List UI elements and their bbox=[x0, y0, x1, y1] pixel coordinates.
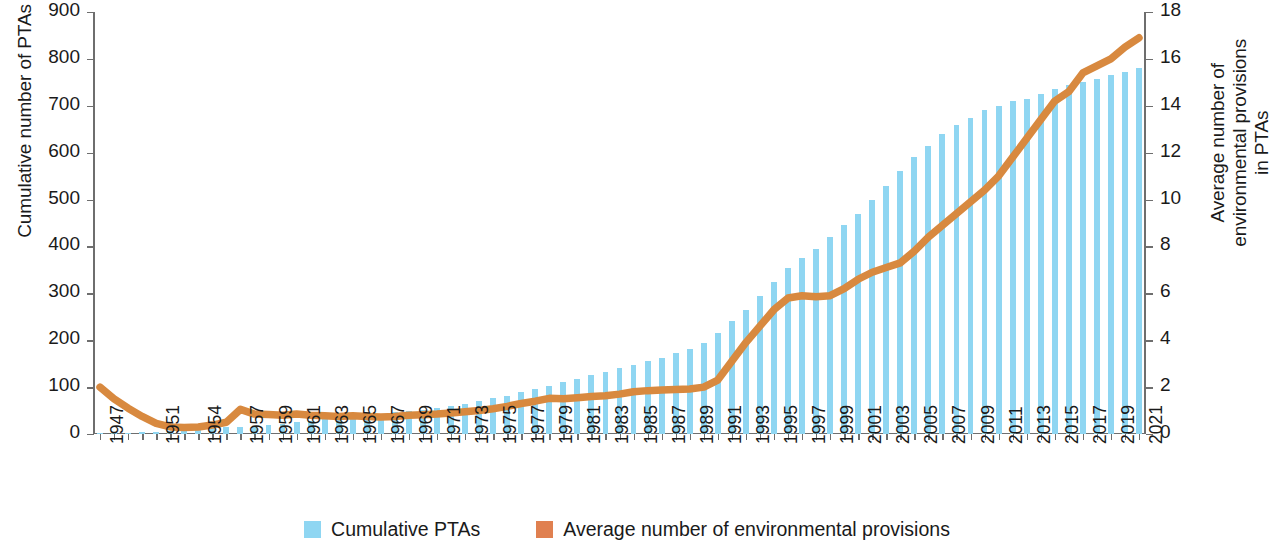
x-axis-tick-label: 1977 bbox=[528, 405, 549, 444]
x-axis-tick-label: 2021 bbox=[1146, 405, 1167, 444]
y-axis-right-tickmark bbox=[1146, 106, 1153, 107]
x-axis-tickmark bbox=[858, 434, 859, 440]
y-axis-left-tick-label: 200 bbox=[0, 327, 80, 349]
x-axis-tick-label: 2009 bbox=[978, 405, 999, 444]
average-provisions-line bbox=[100, 38, 1139, 428]
x-axis-tick-label: 1961 bbox=[304, 405, 325, 444]
x-axis-tickmark bbox=[1083, 434, 1084, 440]
x-axis-tickmark bbox=[886, 434, 887, 440]
x-axis-tickmark bbox=[1139, 434, 1140, 440]
legend-item[interactable]: Cumulative PTAs bbox=[304, 518, 480, 541]
y-axis-left-tick-label: 600 bbox=[0, 140, 80, 162]
y-axis-left-tick-label: 300 bbox=[0, 280, 80, 302]
line-series-layer bbox=[93, 12, 1146, 434]
y-axis-right-tick-label: 2 bbox=[1160, 374, 1220, 396]
y-axis-right-tick-label: 0 bbox=[1160, 421, 1220, 443]
legend-swatch bbox=[536, 521, 553, 538]
y-axis-right-tick-label: 12 bbox=[1160, 140, 1220, 162]
y-axis-left-tick-label: 0 bbox=[0, 421, 80, 443]
x-axis-tick-label: 1957 bbox=[247, 405, 268, 444]
y-axis-left-tick-label: 500 bbox=[0, 187, 80, 209]
x-axis-tickmark bbox=[577, 434, 578, 440]
x-axis-tickmark bbox=[409, 434, 410, 440]
y-axis-right-tick-label: 4 bbox=[1160, 327, 1220, 349]
y-axis-left-tick-label: 800 bbox=[0, 46, 80, 68]
x-axis-tickmark bbox=[437, 434, 438, 440]
y-axis-right-tickmark bbox=[1146, 293, 1153, 294]
y-axis-right-tick-label: 16 bbox=[1160, 46, 1220, 68]
x-axis-tickmark bbox=[521, 434, 522, 440]
y-axis-right-tickmark bbox=[1146, 246, 1153, 247]
chart-legend: Cumulative PTAsAverage number of environ… bbox=[0, 518, 1254, 541]
y-axis-left-title: Cumulative number of PTAs bbox=[14, 0, 36, 251]
x-axis-tickmark bbox=[549, 434, 550, 440]
y-axis-right-tickmark bbox=[1146, 387, 1153, 388]
x-axis-tickmark bbox=[914, 434, 915, 440]
x-axis-tick-label: 2001 bbox=[865, 405, 886, 444]
x-axis-tickmark bbox=[634, 434, 635, 440]
x-axis-tickmark bbox=[971, 434, 972, 440]
y-axis-right-tickmark bbox=[1146, 59, 1153, 60]
x-axis-tick-label: 2013 bbox=[1034, 405, 1055, 444]
x-axis-tick-label: 1963 bbox=[332, 405, 353, 444]
y-axis-left-tick-label: 100 bbox=[0, 374, 80, 396]
x-axis-tick-label: 1975 bbox=[500, 405, 521, 444]
plot-area bbox=[93, 12, 1146, 434]
x-axis-tick-label: 2017 bbox=[1090, 405, 1111, 444]
x-axis-tick-label: 1973 bbox=[472, 405, 493, 444]
x-axis-tick-label: 1999 bbox=[837, 405, 858, 444]
x-axis-tick-label: 1995 bbox=[781, 405, 802, 444]
y-axis-right-tick-label: 14 bbox=[1160, 93, 1220, 115]
x-axis-tickmark bbox=[493, 434, 494, 440]
x-axis-tickmark bbox=[100, 434, 101, 440]
x-axis-tickmark bbox=[605, 434, 606, 440]
y-axis-right-tick-label: 8 bbox=[1160, 233, 1220, 255]
x-axis-tick-label: 1981 bbox=[584, 405, 605, 444]
x-axis-tick-label: 1979 bbox=[556, 405, 577, 444]
x-axis-tickmark bbox=[184, 434, 185, 440]
x-axis-tick-label: 1985 bbox=[641, 405, 662, 444]
x-axis-tick-label: 1987 bbox=[669, 405, 690, 444]
x-axis-tickmark bbox=[198, 434, 199, 440]
x-axis-tick-label: 1983 bbox=[612, 405, 633, 444]
x-axis-tick-label: 2003 bbox=[893, 405, 914, 444]
x-axis-tickmark bbox=[774, 434, 775, 440]
x-axis-tick-label: 1971 bbox=[444, 405, 465, 444]
x-axis-tick-label: 1997 bbox=[809, 405, 830, 444]
x-axis-tick-label: 2005 bbox=[921, 405, 942, 444]
x-axis-tick-label: 1991 bbox=[725, 405, 746, 444]
x-axis-tickmark bbox=[156, 434, 157, 440]
y-axis-right-tickmark bbox=[1146, 340, 1153, 341]
legend-item[interactable]: Average number of environmental provisio… bbox=[536, 518, 950, 541]
x-axis-tick-label: 2019 bbox=[1118, 405, 1139, 444]
x-axis-tickmark bbox=[269, 434, 270, 440]
legend-label: Average number of environmental provisio… bbox=[563, 518, 950, 541]
x-axis-tickmark bbox=[240, 434, 241, 440]
y-axis-left-tick-label: 700 bbox=[0, 93, 80, 115]
x-axis-tick-label: 1959 bbox=[276, 405, 297, 444]
y-axis-right-tick-label: 6 bbox=[1160, 280, 1220, 302]
x-axis-tick-label: 1993 bbox=[753, 405, 774, 444]
y-axis-left-tick-label: 400 bbox=[0, 233, 80, 255]
y-axis-right-tickmark bbox=[1146, 12, 1153, 13]
y-axis-right-tickmark bbox=[1146, 200, 1153, 201]
x-axis-tick-label: 1967 bbox=[388, 405, 409, 444]
y-axis-left-tick-label: 900 bbox=[0, 0, 80, 21]
x-axis-tickmark bbox=[802, 434, 803, 440]
x-axis-tickmark bbox=[830, 434, 831, 440]
x-axis-tickmark bbox=[128, 434, 129, 440]
x-axis-tickmark bbox=[942, 434, 943, 440]
legend-label: Cumulative PTAs bbox=[331, 518, 480, 541]
y-axis-right-tickmark bbox=[1146, 153, 1153, 154]
x-axis-tick-label: 1954 bbox=[205, 405, 226, 444]
x-axis-tick-label: 2015 bbox=[1062, 405, 1083, 444]
x-axis-tickmark bbox=[381, 434, 382, 440]
y-axis-right-tick-label: 10 bbox=[1160, 187, 1220, 209]
legend-swatch bbox=[304, 521, 321, 538]
x-axis-tickmark bbox=[142, 434, 143, 440]
x-axis-tickmark bbox=[226, 434, 227, 440]
x-axis-tickmark bbox=[1111, 434, 1112, 440]
x-axis-tick-label: 1969 bbox=[416, 405, 437, 444]
y-axis-left-tickmark bbox=[87, 434, 94, 435]
